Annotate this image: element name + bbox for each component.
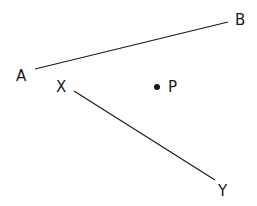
- label-b: B: [235, 11, 245, 29]
- label-x: X: [56, 78, 66, 96]
- label-p: P: [168, 78, 177, 96]
- point-p-dot: [154, 84, 160, 90]
- diagram-canvas: A B X Y P: [0, 0, 257, 206]
- label-a: A: [16, 67, 27, 85]
- label-y: Y: [217, 182, 228, 200]
- geometry-diagram: A B X Y P: [0, 0, 257, 206]
- segment-xy: [74, 91, 215, 180]
- segment-ab: [35, 22, 228, 69]
